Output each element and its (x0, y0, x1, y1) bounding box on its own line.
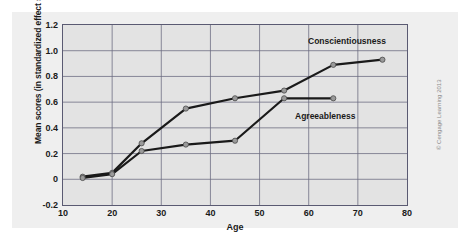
data-point-agreeableness (282, 96, 287, 101)
x-tick-label: 80 (387, 208, 427, 218)
series-label-agreeableness: Agreeableness (295, 111, 355, 121)
y-tick-label: 0 (16, 174, 58, 184)
data-point-conscientiousness (183, 106, 188, 111)
y-tick-label: 0.2 (16, 149, 58, 159)
x-tick-label: 50 (240, 208, 280, 218)
y-tick-label: 0.6 (16, 97, 58, 107)
data-point-agreeableness (139, 148, 144, 153)
figure-container: Mean scores (in standardized effect size… (0, 0, 470, 245)
y-tick-label: 1.0 (16, 46, 58, 56)
y-tick-label: 0.8 (16, 71, 58, 81)
y-tick-label: 1.2 (16, 20, 58, 30)
x-tick-label: 30 (141, 208, 181, 218)
x-tick-label: 40 (190, 208, 230, 218)
x-axis-title: Age (62, 222, 408, 232)
x-tick-label: 20 (92, 208, 132, 218)
x-tick-label: 10 (43, 208, 83, 218)
data-point-agreeableness (183, 142, 188, 147)
y-tick-label: 0.4 (16, 123, 58, 133)
data-point-conscientiousness (331, 62, 336, 67)
data-point-agreeableness (331, 96, 336, 101)
data-point-conscientiousness (282, 88, 287, 93)
data-point-agreeableness (232, 138, 237, 143)
data-point-agreeableness (110, 172, 115, 177)
data-point-agreeableness (80, 175, 85, 180)
x-tick-label: 60 (289, 208, 329, 218)
data-point-conscientiousness (139, 141, 144, 146)
plot-area (62, 24, 408, 206)
x-axis-tick-labels: 1020304050607080 (62, 208, 408, 222)
data-point-conscientiousness (380, 57, 385, 62)
series-label-conscientiousness: Conscientiousness (308, 36, 386, 46)
copyright-credit: © Cengage Learning 2013 (436, 60, 442, 150)
y-axis-tick-labels: -0.200.20.40.60.81.01.2 (10, 24, 58, 206)
data-point-conscientiousness (232, 96, 237, 101)
x-tick-label: 70 (338, 208, 378, 218)
